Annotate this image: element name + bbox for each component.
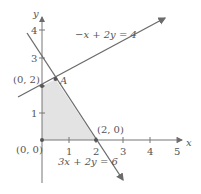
equation-2: 3x + 2y = 6 — [58, 156, 118, 167]
label-2-0: (2, 0) — [97, 124, 124, 135]
point-0-2 — [40, 84, 44, 88]
y-tick-1: 1 — [31, 108, 37, 119]
x-tick-5: 5 — [174, 146, 180, 157]
feasible-region — [42, 79, 96, 140]
y-tick-4: 4 — [31, 25, 37, 36]
feasible-region-diagram: 1 2 3 4 5 1 3 4 x y (0, 0) (0, 2) (2, 0)… — [0, 0, 201, 194]
point-2-0 — [94, 138, 98, 142]
label-A: A — [59, 75, 67, 86]
y-tick-3: 3 — [31, 53, 37, 64]
y-axis-label: y — [32, 8, 39, 19]
x-tick-3: 3 — [120, 146, 126, 157]
label-0-2: (0, 2) — [13, 74, 40, 85]
x-axis-label: x — [186, 137, 192, 148]
point-A — [54, 77, 58, 81]
label-origin: (0, 0) — [16, 144, 43, 155]
equation-1: −x + 2y = 4 — [75, 29, 137, 40]
x-tick-4: 4 — [147, 146, 153, 157]
point-origin — [40, 138, 44, 142]
